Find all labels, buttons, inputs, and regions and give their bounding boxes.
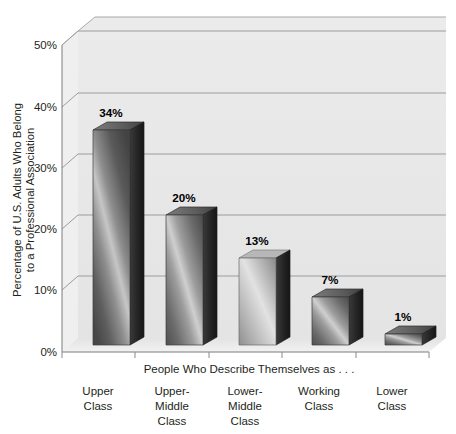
y-tick-label-30: 30%: [34, 162, 57, 174]
category-label-1-line1: Upper: [82, 385, 113, 397]
bar-side-face-3: [276, 250, 290, 345]
category-label-3-line3: Class: [231, 415, 260, 427]
y-tick-label-10: 10%: [34, 284, 57, 296]
category-label-5-line2: Class: [378, 400, 407, 412]
chart-container: 50% 40% 30% 20% 10% 0% Percentage of U.S…: [0, 0, 456, 434]
bar-front-face-1: [93, 130, 130, 345]
bar-front-face-2: [166, 215, 203, 345]
category-label-4-line2: Class: [305, 400, 334, 412]
bar-front-face-3: [239, 258, 276, 345]
bar-side-face-2: [203, 207, 217, 345]
y-tick-label-0: 0%: [40, 346, 57, 358]
y-tick-label-50: 50%: [34, 39, 57, 51]
plot-left-wall: [62, 31, 78, 352]
y-axis-title: Percentage of U.S. Adults Who Belong to …: [11, 103, 36, 297]
category-label-4-line1: Working: [298, 385, 340, 397]
bar-front-face-4: [312, 297, 349, 345]
bar-front-face-5: [385, 334, 422, 345]
bar-value-label-5: 1%: [395, 310, 413, 323]
bar-side-face-1: [130, 122, 144, 345]
bar-group-upper-class[interactable]: 34%: [93, 106, 144, 345]
bar-value-label-2: 20%: [172, 191, 196, 204]
category-label-1-line2: Class: [84, 400, 113, 412]
category-label-3-line2: Middle: [228, 400, 262, 412]
category-label-3-line1: Lower-: [227, 385, 262, 397]
category-labels: Upper Class Upper- Middle Class Lower- M…: [82, 385, 407, 427]
y-tick-label-20: 20%: [34, 223, 57, 235]
category-label-2-line3: Class: [158, 415, 187, 427]
y-axis-title-line1: Percentage of U.S. Adults Who Belong: [11, 103, 23, 297]
bar-side-face-4: [349, 289, 363, 345]
category-label-5-line1: Lower: [376, 385, 407, 397]
y-tick-label-40: 40%: [34, 101, 57, 113]
category-label-2-line1: Upper-: [154, 385, 189, 397]
bar-value-label-3: 13%: [245, 234, 269, 247]
y-axis-title-line2: to a Professional Association: [24, 128, 36, 272]
x-axis: [62, 352, 429, 358]
bar-value-label-1: 34%: [99, 106, 123, 119]
bar-chart-figure: 50% 40% 30% 20% 10% 0% Percentage of U.S…: [0, 0, 456, 434]
x-axis-title: People Who Describe Themselves as . . .: [144, 363, 355, 375]
category-label-2-line2: Middle: [155, 400, 189, 412]
bar-value-label-4: 7%: [322, 273, 340, 286]
y-axis: 50% 40% 30% 20% 10% 0%: [34, 39, 62, 358]
bar-group-upper-middle-class[interactable]: 20%: [166, 191, 217, 345]
